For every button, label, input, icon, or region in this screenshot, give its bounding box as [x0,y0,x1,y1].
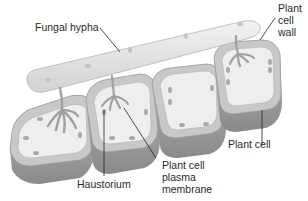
label-plant-cell-plasma-membrane: Plant cell plasma membrane [162,159,212,195]
leader-fungal-hypha [100,28,120,52]
fungal-haustoria-diagram: Fungal hypha Plant cell wall Plant cell … [0,0,308,201]
label-plant-cell-wall-line-2: cell [278,14,302,26]
plant-cell-1 [10,95,94,184]
label-plant-cell: Plant cell [228,138,271,150]
label-haustorium: Haustorium [77,178,131,190]
label-fungal-hypha: Fungal hypha [35,21,99,33]
plant-cell-3 [152,64,226,158]
label-plasma-membrane-line-1: Plant cell [162,159,212,171]
plant-cell-4 [214,40,282,132]
label-plant-cell-wall: Plant cell wall [278,2,302,38]
label-plant-cell-wall-line-1: Plant [278,2,302,14]
label-plasma-membrane-line-3: membrane [162,183,212,195]
label-plant-cell-wall-line-3: wall [278,26,302,38]
leader-plant-cell-wall [260,18,275,40]
plant-cell-2 [86,74,160,174]
label-plasma-membrane-line-2: plasma [162,171,212,183]
